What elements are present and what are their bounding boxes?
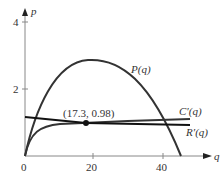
- y-tick-label-2: 2: [13, 83, 19, 95]
- intersection-label: (17.3, 0.98): [63, 107, 115, 120]
- profit-label: P(q): [130, 63, 151, 76]
- x-axis-arrow-icon: [203, 153, 212, 159]
- x-tick-label-0: 0: [21, 161, 27, 173]
- chart: 4 2 0 20 40 p q (17.3, 0.98) P(q) C′(q) …: [0, 0, 222, 174]
- y-axis-arrow-icon: [22, 8, 28, 16]
- intersection-point: [83, 120, 89, 126]
- x-tick-label-40: 40: [156, 161, 168, 173]
- x-tick-label-20: 20: [86, 161, 98, 173]
- marginal-cost-label: C′(q): [179, 105, 202, 118]
- y-tick-label-4: 4: [13, 16, 19, 28]
- x-axis-label: q: [214, 150, 220, 162]
- marginal-revenue-label: R′(q): [185, 126, 208, 139]
- y-axis-label: p: [30, 5, 37, 17]
